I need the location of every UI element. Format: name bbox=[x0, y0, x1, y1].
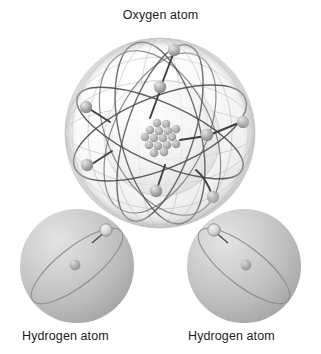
hydrogen-atom-right bbox=[187, 209, 301, 323]
hydrogen-atom-left-label: Hydrogen atom bbox=[22, 329, 109, 343]
oxygen-atom bbox=[61, 31, 259, 235]
water-molecule-illustration bbox=[0, 0, 321, 354]
hydrogen-atom-left bbox=[20, 209, 134, 323]
hydrogen-atom-right-label: Hydrogen atom bbox=[188, 329, 275, 343]
hydrogen-right-nucleus bbox=[241, 260, 252, 271]
oxygen-atom-label: Oxygen atom bbox=[0, 8, 321, 22]
hydrogen-right-electron bbox=[208, 224, 220, 236]
hydrogen-left-nucleus bbox=[70, 260, 81, 271]
oxygen-outer-shell-rim bbox=[65, 38, 255, 228]
hydrogen-left-electron bbox=[100, 224, 112, 236]
atomic-structure-figure: Oxygen atom Hydrogen atom Hydrogen atom bbox=[0, 0, 321, 354]
